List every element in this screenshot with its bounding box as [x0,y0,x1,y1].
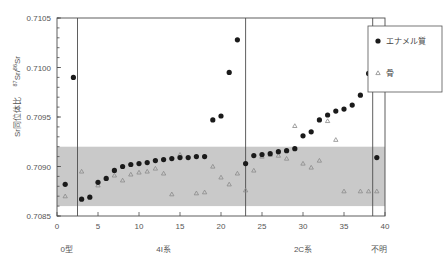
y-tick-label: 0.7100 [27,64,52,73]
data-point-enamel [227,70,232,75]
group-label: 2C系 [294,244,312,254]
data-point-enamel [95,180,100,185]
data-point-enamel [169,156,174,161]
data-point-enamel [210,117,215,122]
group-label: 0型 [61,245,73,254]
data-point-enamel [251,153,256,158]
data-point-bone [325,119,329,123]
data-point-enamel [136,161,141,166]
data-point-enamel [202,154,207,159]
data-point-enamel [120,164,125,169]
data-point-enamel [341,106,346,111]
data-point-bone [293,124,297,128]
data-point-enamel [87,195,92,200]
y-tick-label: 0.7085 [27,212,52,221]
data-point-enamel [79,197,84,202]
x-tick-label: 0 [55,222,60,231]
legend-label: 骨 [386,69,394,78]
data-point-enamel [317,117,322,122]
y-tick-label: 0.7090 [27,163,52,172]
data-point-enamel [374,155,379,160]
data-point-enamel [268,151,273,156]
x-tick-label: 30 [299,222,308,231]
data-point-enamel [333,108,338,113]
data-point-enamel [276,149,281,154]
y-axis-title-sup: 87Sr/86Sr [12,56,22,87]
data-point-enamel [284,148,289,153]
data-point-enamel [63,182,68,187]
legend-box [368,26,442,92]
data-point-enamel [145,160,150,165]
data-point-enamel [161,157,166,162]
data-point-enamel [259,152,264,157]
data-point-enamel [112,168,117,173]
data-point-enamel [358,93,363,98]
x-tick-label: 5 [96,222,101,231]
x-tick-label: 10 [135,222,144,231]
x-tick-label: 20 [217,222,226,231]
data-point-enamel [309,129,314,134]
group-label: 4I系 [156,244,171,254]
data-point-enamel [218,113,223,118]
x-tick-label: 25 [258,222,267,231]
data-point-enamel [153,158,158,163]
data-point-enamel [177,155,182,160]
x-tick-label: 15 [176,222,185,231]
y-tick-label: 0.7105 [27,14,52,23]
data-point-enamel [325,112,330,117]
data-point-enamel [350,103,355,108]
data-point-enamel [235,37,240,42]
group-label: 不明 [371,245,387,254]
scatter-chart: 0.70850.70900.70950.71000.71050510152025… [0,0,445,270]
x-tick-label: 35 [340,222,349,231]
chart-canvas: 0.70850.70900.70950.71000.71050510152025… [0,0,445,270]
data-point-enamel [300,133,305,138]
y-axis-title: Sr同位体比87Sr/86Sr [12,56,22,137]
data-point-enamel [186,155,191,160]
data-point-enamel [375,38,380,43]
data-point-enamel [194,154,199,159]
data-point-enamel [104,176,109,181]
data-point-enamel [292,146,297,151]
y-tick-label: 0.7095 [27,113,52,122]
x-tick-label: 40 [381,222,390,231]
legend-label: エナメル質 [386,36,426,46]
data-point-enamel [71,75,76,80]
y-axis-title-text: Sr同位体比 [12,97,22,137]
data-point-enamel [243,161,248,166]
data-point-enamel [128,162,133,167]
data-point-bone [334,138,338,142]
